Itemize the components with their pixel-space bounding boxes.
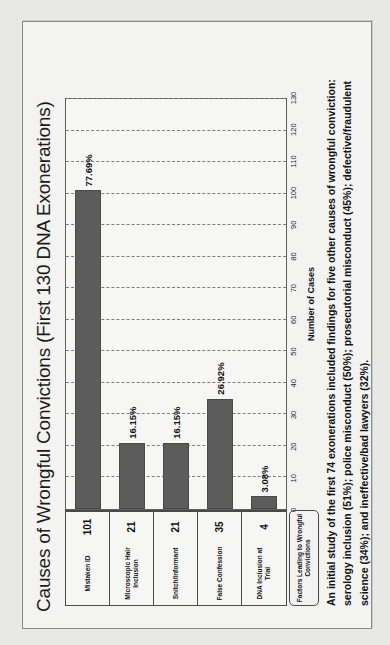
category-value: 21 xyxy=(154,511,197,542)
chart-plot-area: 77.69%16.15%16.15%26.92%3.08% xyxy=(65,98,287,510)
category-row: Mistaken ID101 xyxy=(66,511,110,605)
bar xyxy=(163,443,189,509)
chart-bars: 77.69%16.15%16.15%26.92%3.08% xyxy=(66,99,286,509)
chart-value-axis: 0102030405060708090100110120130 xyxy=(289,98,305,510)
value-axis-tick-label: 100 xyxy=(289,187,298,200)
bar-percent-label: 77.69% xyxy=(83,154,94,186)
category-table-header: Factors Leading to Wrongful Convictions xyxy=(289,510,319,606)
footnote-text: An initial study of the first 74 exonera… xyxy=(323,44,372,606)
bar-row: 16.15% xyxy=(110,99,154,509)
bar-row: 3.08% xyxy=(242,99,286,509)
category-table: Mistaken ID101Microscopic Hair Inclusion… xyxy=(65,510,287,606)
page-title: Causes of Wrongful Convictions (First 13… xyxy=(33,32,55,612)
bar-row: 77.69% xyxy=(66,99,110,509)
bar-percent-label: 16.15% xyxy=(127,407,138,439)
category-label: False Confession xyxy=(216,542,224,605)
category-label: DNA Inclusion at Trial xyxy=(256,542,272,605)
value-axis-tick-label: 60 xyxy=(289,316,298,324)
bar-percent-label: 3.08% xyxy=(259,465,270,492)
value-axis-tick-label: 10 xyxy=(289,474,298,482)
value-axis-tick-label: 20 xyxy=(289,442,298,450)
category-label: Microscopic Hair Inclusion xyxy=(124,542,140,605)
value-axis-tick-label: 30 xyxy=(289,411,298,419)
category-row: Snitch/Informant21 xyxy=(154,511,198,605)
bar-percent-label: 16.15% xyxy=(171,407,182,439)
category-value: 21 xyxy=(110,511,153,542)
value-axis-tick-label: 90 xyxy=(289,221,298,229)
category-label: Snitch/Informant xyxy=(172,542,180,605)
slide-canvas: Causes of Wrongful Convictions (First 13… xyxy=(22,21,372,629)
category-label: Mistaken ID xyxy=(84,542,92,605)
bar-percent-label: 26.92% xyxy=(215,362,226,394)
rotated-slide-wrapper: Causes of Wrongful Convictions (First 13… xyxy=(0,0,390,645)
bar xyxy=(75,190,101,509)
category-table-header-wrapper: Factors Leading to Wrongful Convictions xyxy=(289,510,319,606)
value-axis-tick-label: 70 xyxy=(289,284,298,292)
bar-row: 16.15% xyxy=(154,99,198,509)
category-value: 4 xyxy=(242,511,286,542)
category-row: Microscopic Hair Inclusion21 xyxy=(110,511,154,605)
value-axis-tick-label: 110 xyxy=(289,155,298,167)
bar-row: 26.92% xyxy=(198,99,242,509)
value-axis-tick-label: 120 xyxy=(289,123,298,136)
value-axis-tick-label: 80 xyxy=(289,252,298,260)
bar xyxy=(119,443,145,509)
chart-value-axis-title: Number of Cases xyxy=(306,98,316,510)
value-axis-tick-label: 40 xyxy=(289,379,298,387)
bar xyxy=(251,496,277,509)
bar xyxy=(207,399,233,509)
category-row: False Confession35 xyxy=(198,511,242,605)
category-row: DNA Inclusion at Trial4 xyxy=(242,511,286,605)
value-axis-tick-label: 50 xyxy=(289,347,298,355)
category-value: 101 xyxy=(66,511,109,542)
value-axis-tick-label: 130 xyxy=(289,92,298,105)
category-value: 35 xyxy=(198,511,241,542)
